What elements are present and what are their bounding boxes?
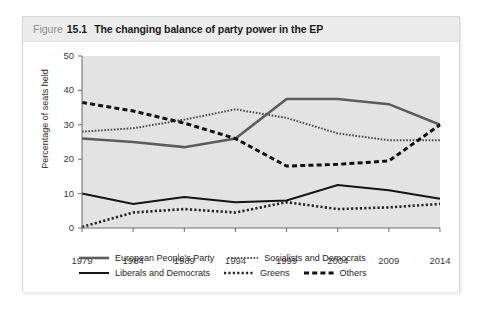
legend-label: Greens (260, 268, 290, 278)
legend-row: Liberals and DemocratsGreensOthers (79, 265, 449, 280)
legend-item: Greens (224, 268, 290, 278)
legend-swatch (79, 268, 109, 278)
legend-item: Socialists and Democrats (228, 253, 366, 263)
legend-swatch (79, 253, 109, 263)
legend-label: Liberals and Democrats (115, 268, 210, 278)
figure-title: The changing balance of party power in t… (94, 23, 323, 35)
figure-number: 15.1 (67, 23, 87, 35)
chart-plot-area: Percentage of seats held 01020304050 197… (23, 42, 461, 242)
legend-swatch (228, 253, 258, 263)
chart-legend: European People's PartySocialists and De… (79, 250, 449, 280)
chart-svg (23, 42, 461, 242)
chart-body: Percentage of seats held 01020304050 197… (23, 42, 459, 292)
legend-label: European People's Party (115, 253, 214, 263)
legend-item: European People's Party (79, 253, 214, 263)
legend-swatch (224, 268, 254, 278)
figure-label-word: Figure (33, 23, 63, 35)
legend-label: Others (340, 268, 367, 278)
figure-card: Figure 15.1 The changing balance of part… (22, 16, 460, 292)
figure-header: Figure 15.1 The changing balance of part… (23, 17, 459, 42)
legend-row: European People's PartySocialists and De… (79, 250, 449, 265)
legend-swatch (304, 268, 334, 278)
legend-item: Others (304, 268, 367, 278)
legend-label: Socialists and Democrats (264, 253, 366, 263)
legend-item: Liberals and Democrats (79, 268, 210, 278)
